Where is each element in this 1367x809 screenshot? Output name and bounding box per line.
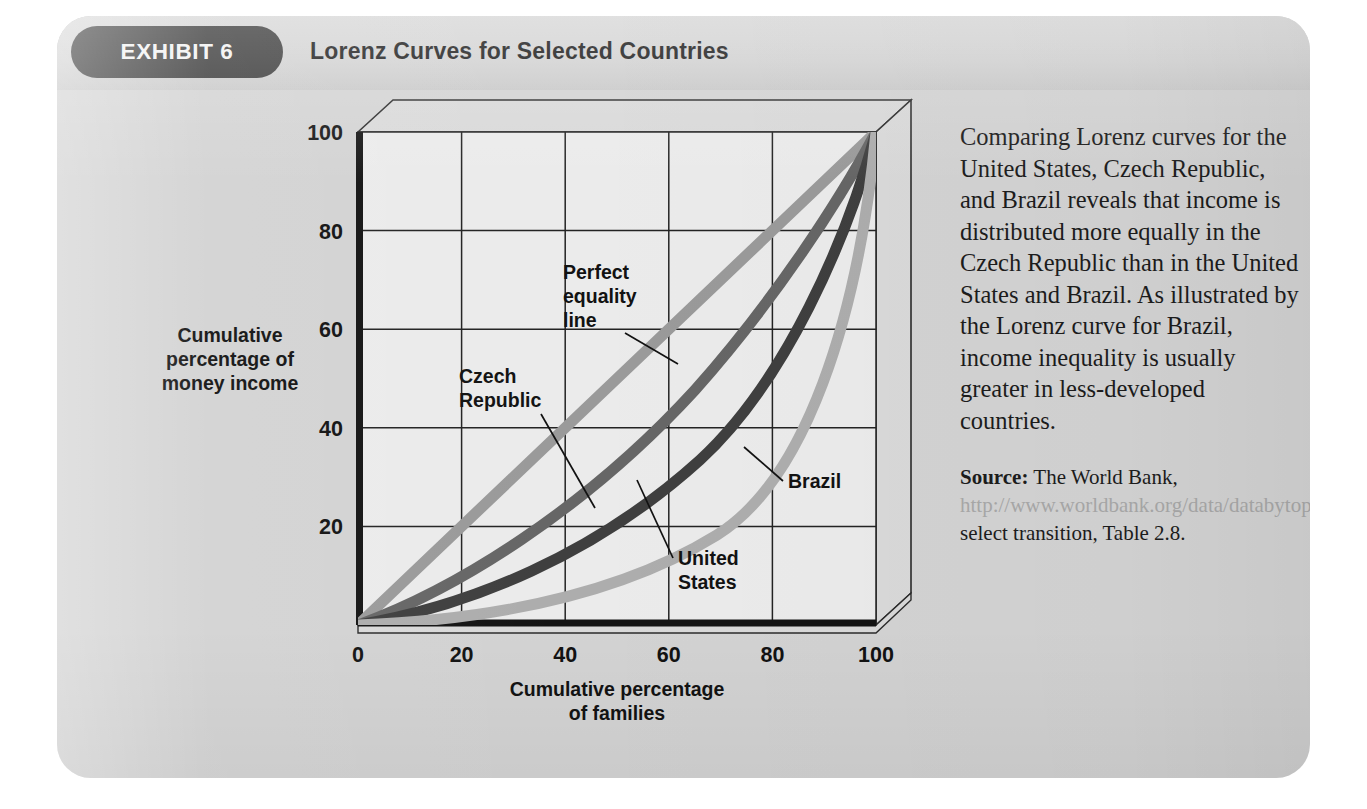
y-tick-40: 40 [319,417,343,441]
lorenz-curve-chart: 100 80 60 40 20 0 20 40 60 80 100 Cumula… [125,90,915,760]
y-axis-title-line2: percentage of [166,348,294,370]
x-axis-title-line2: of families [569,702,666,724]
source-label: Source: [960,465,1028,489]
x-tick-20: 20 [450,643,474,667]
annotation-perfect-equality-line-l1: Perfect [563,261,630,283]
y-axis-tick-labels: 100 80 60 40 20 [307,121,343,539]
exhibit-badge-label: EXHIBIT 6 [121,39,234,65]
y-axis-title-line3: money income [162,372,299,394]
y-tick-100: 100 [307,121,343,145]
caption-body: Comparing Lorenz curves for the United S… [960,121,1306,436]
annotation-perfect-equality-line-l2: equality [563,285,637,307]
annotation-united-states-l1: United [678,547,739,569]
x-axis-title: Cumulative percentage of families [510,678,725,724]
y-axis-title: Cumulative percentage of money income [162,324,299,394]
exhibit-badge: EXHIBIT 6 [71,26,283,78]
x-tick-80: 80 [760,643,784,667]
y-tick-60: 60 [319,318,343,342]
annotation-brazil-label: Brazil [788,470,841,492]
chart-svg: 100 80 60 40 20 0 20 40 60 80 100 Cumula… [125,90,915,760]
x-tick-60: 60 [657,643,681,667]
x-tick-100: 100 [858,643,894,667]
y-tick-80: 80 [319,220,343,244]
exhibit-panel: EXHIBIT 6 Lorenz Curves for Selected Cou… [57,16,1310,778]
x-tick-40: 40 [553,643,577,667]
annotation-czech-republic-l1: Czech [459,365,516,387]
source-block: Source: The World Bank, http://www.world… [960,463,1306,547]
caption-column: Comparing Lorenz curves for the United S… [960,121,1306,547]
annotation-perfect-equality-line-l3: line [563,309,597,331]
x-axis-title-line1: Cumulative percentage [510,678,725,700]
annotation-united-states-l2: States [678,571,737,593]
source-url[interactable]: http://www.worldbank.org/data/databytopi… [960,493,1310,517]
x-tick-0: 0 [352,643,364,667]
exhibit-header: EXHIBIT 6 Lorenz Curves for Selected Cou… [57,16,1310,90]
y-tick-20: 20 [319,515,343,539]
annotation-czech-republic-l2: Republic [459,389,541,411]
y-axis-title-line1: Cumulative [177,324,282,346]
exhibit-title: Lorenz Curves for Selected Countries [310,38,729,65]
x-axis-tick-labels: 0 20 40 60 80 100 [352,643,894,667]
source-text: The World Bank, [1033,465,1177,489]
